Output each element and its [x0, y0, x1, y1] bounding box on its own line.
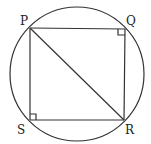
label-q: Q — [126, 14, 136, 28]
geometry-diagram: P Q R S — [0, 0, 151, 144]
segment-qr — [124, 29, 125, 120]
right-angle-marker-q — [118, 29, 125, 35]
label-p: P — [20, 14, 28, 28]
segment-pq — [30, 28, 125, 29]
diagonal-pr — [30, 28, 124, 120]
right-angle-marker-s — [30, 114, 36, 120]
label-r: R — [125, 123, 135, 137]
label-s: S — [17, 123, 25, 137]
